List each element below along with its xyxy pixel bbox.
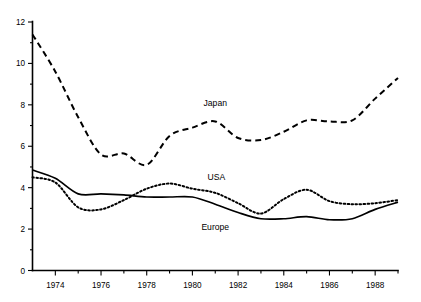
y-tick-label: 6 [20,142,25,151]
series-labels: JapanUSAEurope [201,98,229,232]
line-chart: 024681012 197419761978198019821984198619… [0,0,421,302]
x-tick-label: 1974 [46,281,65,290]
x-tick-label: 1976 [92,281,111,290]
series-label-usa: USA [208,172,226,182]
x-axis-ticks: 19741976197819801982198419861988 [46,271,398,290]
series-group [33,34,399,220]
x-tick-label: 1978 [138,281,157,290]
y-tick-label: 8 [20,101,25,110]
x-tick-label: 1984 [275,281,294,290]
series-label-europe: Europe [201,222,229,232]
y-tick-label: 0 [20,267,25,276]
y-tick-label: 2 [20,225,25,234]
x-tick-label: 1980 [183,281,202,290]
x-tick-label: 1988 [366,281,385,290]
y-axis-ticks: 024681012 [16,18,33,276]
y-tick-label: 10 [16,59,26,68]
y-tick-label: 12 [16,18,26,27]
series-label-japan: Japan [204,98,228,108]
x-tick-label: 1982 [229,281,248,290]
y-tick-label: 4 [20,184,25,193]
chart-canvas: 024681012 197419761978198019821984198619… [0,0,421,302]
x-tick-label: 1986 [320,281,339,290]
